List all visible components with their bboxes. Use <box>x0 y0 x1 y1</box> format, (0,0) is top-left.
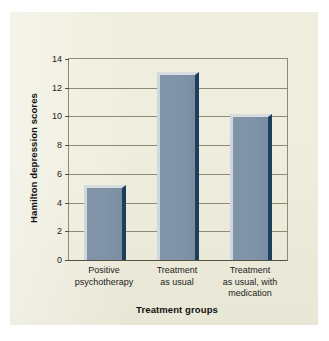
chart-panel: Hamilton depression scores 02468101214 P… <box>10 12 318 325</box>
x-axis-title: Treatment groups <box>68 304 286 315</box>
y-axis-tick-label: 8 <box>57 141 62 150</box>
y-axis-title: Hamilton depression scores <box>28 93 39 223</box>
bar <box>230 114 272 260</box>
category-label-line: Positive <box>88 265 120 275</box>
category-label-line: Treatment <box>230 265 271 275</box>
y-axis-tick <box>65 88 69 89</box>
y-axis-tick <box>65 59 69 60</box>
y-axis-tick-label: 10 <box>52 112 62 121</box>
y-axis-tick <box>65 203 69 204</box>
plot-area: 02468101214 <box>68 58 288 261</box>
y-axis-tick <box>65 116 69 117</box>
category-label-line: Treatment <box>157 265 198 275</box>
bar <box>157 72 199 260</box>
y-axis-tick <box>65 260 69 261</box>
y-axis-tick <box>65 145 69 146</box>
y-axis-tick-label: 4 <box>57 198 62 207</box>
category-label-line: medication <box>228 288 272 298</box>
y-axis-tick <box>65 174 69 175</box>
y-axis-tick-label: 0 <box>57 256 62 265</box>
y-axis-tick-label: 14 <box>52 55 62 64</box>
bar <box>84 185 126 260</box>
category-label: Treatmentas usual, withmedication <box>207 265 293 300</box>
figure-container: Hamilton depression scores 02468101214 P… <box>0 0 329 341</box>
category-label-line: psychotherapy <box>75 277 134 287</box>
category-label-line: as usual <box>160 277 194 287</box>
y-axis-tick-label: 2 <box>57 227 62 236</box>
category-label-line: as usual, with <box>223 277 278 287</box>
y-axis-tick-label: 6 <box>57 169 62 178</box>
y-axis-tick-label: 12 <box>52 83 62 92</box>
y-axis-tick <box>65 231 69 232</box>
